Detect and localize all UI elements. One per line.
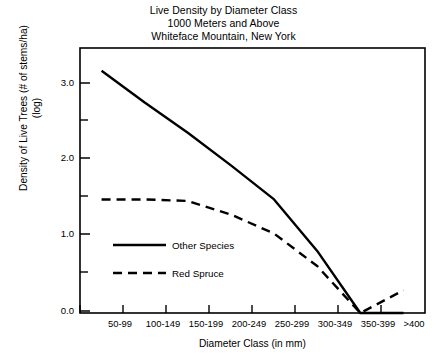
y-axis-major-ticks: [80, 83, 90, 311]
chart-plot-svg: [0, 0, 447, 363]
series-line-other-species: [102, 71, 404, 313]
y-axis-minor-ticks: [80, 120, 88, 272]
chart-figure: Live Density by Diameter Class 1000 Mete…: [0, 0, 447, 363]
x-axis-ticks: [80, 305, 381, 313]
series-line-red-spruce: [102, 199, 404, 313]
